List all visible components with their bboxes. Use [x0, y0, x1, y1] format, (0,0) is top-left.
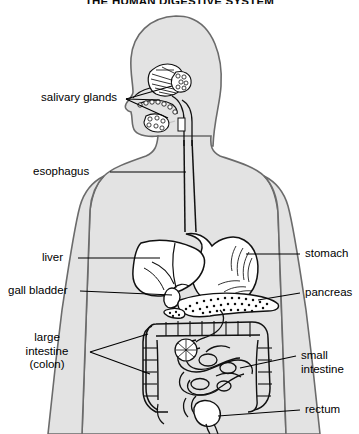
label-small-intestine-line1: small: [301, 349, 359, 363]
label-gall-bladder: gall bladder: [8, 284, 67, 298]
digestive-system-diagram: THE HUMAN DIGESTIVE SYSTEM: [0, 0, 359, 434]
label-pancreas: pancreas: [305, 286, 352, 300]
label-large-intestine: large intestine (colon): [10, 331, 84, 372]
label-esophagus: esophagus: [33, 165, 89, 179]
intestine-detail-circle: [175, 339, 197, 361]
label-stomach: stomach: [305, 247, 348, 261]
label-salivary-glands: salivary glands: [41, 91, 117, 105]
label-large-intestine-line3: (colon): [10, 358, 84, 372]
submandibular-gland: [171, 71, 191, 92]
label-small-intestine: small intestine: [301, 349, 359, 376]
label-large-intestine-line1: large: [10, 331, 84, 345]
label-small-intestine-line2: intestine: [301, 363, 359, 377]
label-liver: liver: [42, 251, 63, 265]
label-large-intestine-line2: intestine: [10, 345, 84, 359]
label-rectum: rectum: [305, 403, 340, 417]
